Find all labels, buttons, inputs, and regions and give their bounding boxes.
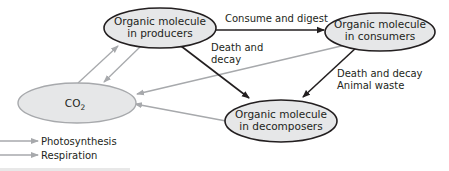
producers-label-line2: in producers <box>127 27 192 39</box>
consumers-label-line1: Organic molecule <box>334 18 426 30</box>
legend: Photosynthesis Respiration <box>0 136 117 161</box>
death-decay-label-line2: decay <box>211 54 241 65</box>
death-decay-waste-label-line2: Animal waste <box>337 80 404 91</box>
consumers-label-line2: in consumers <box>345 30 415 42</box>
respiration-arrow-decomposers-to-co2 <box>135 104 226 121</box>
producers-label-line1: Organic molecule <box>114 15 206 27</box>
legend-photosynthesis-label: Photosynthesis <box>41 136 117 147</box>
node-consumers: Organic molecule in consumers <box>325 13 435 51</box>
node-co2: CO2 <box>18 83 136 123</box>
death-decay-waste-label-line1: Death and decay <box>337 68 423 79</box>
legend-respiration-label: Respiration <box>41 150 97 161</box>
photosynthesis-arrow-co2-to-producers <box>78 46 118 83</box>
respiration-arrow-producers-to-co2 <box>104 46 141 82</box>
carbon-cycle-diagram: Organic molecule in producers Organic mo… <box>0 0 449 171</box>
node-producers: Organic molecule in producers <box>104 8 216 48</box>
death-decay-label-line1: Death and <box>211 42 263 53</box>
decomposers-label-line1: Organic molecule <box>235 108 327 120</box>
cropped-caption-remnant <box>0 168 130 171</box>
consume-digest-label: Consume and digest <box>225 13 328 24</box>
node-decomposers: Organic molecule in decomposers <box>225 100 337 142</box>
decomposers-label-line2: in decomposers <box>239 120 322 132</box>
